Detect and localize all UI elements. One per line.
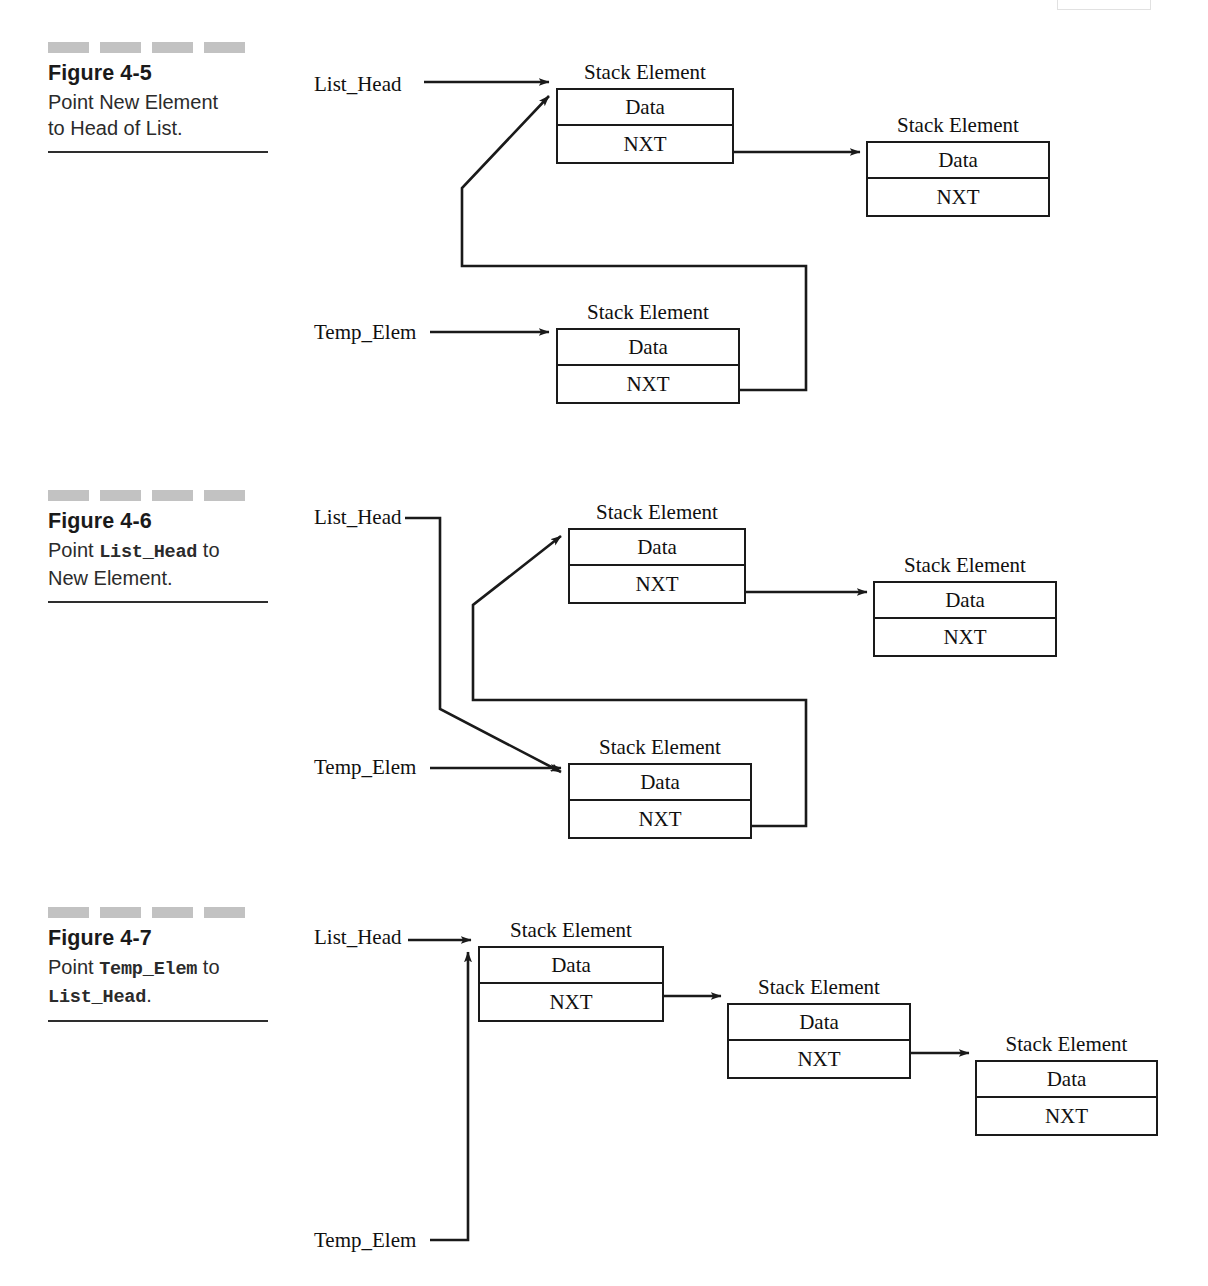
node-box: Data NXT [866,141,1050,217]
figure-caption-4-5: Figure 4-5 Point New Element to Head of … [48,42,280,153]
pointer-label-temp-elem: Temp_Elem [314,755,416,780]
figure-description-prefix: Point [48,539,99,561]
node-title: Stack Element [556,300,740,325]
figure-title: Figure 4-6 [48,508,280,536]
node-title: Stack Element [727,975,911,1000]
arrow-temp-elem-to-list-head [430,952,468,1240]
pointer-label-list-head: List_Head [314,505,401,530]
figure-description-suffix: to [197,956,219,978]
stack-element-node: Stack Element Data NXT [556,60,734,164]
caption-rule [48,601,268,603]
node-box: Data NXT [727,1003,911,1079]
figure-description-code: List_Head [99,542,197,563]
caption-rule [48,151,268,153]
node-title: Stack Element [975,1032,1158,1057]
node-box: Data NXT [556,88,734,164]
figure-description-code-1: Temp_Elem [99,959,197,980]
caption-dash [100,42,141,53]
stack-element-node: Stack Element Data NXT [727,975,911,1079]
node-cell-next: NXT [868,179,1048,215]
node-box: Data NXT [975,1060,1158,1136]
caption-dash [152,42,193,53]
node-cell-data: Data [558,330,738,366]
figure-description-code-2: List_Head [48,987,146,1008]
node-box: Data NXT [568,763,752,839]
page-number-artifact: 105 [1057,0,1151,10]
stack-element-node: Stack Element Data NXT [478,918,664,1022]
figure-description: Point New Element to Head of List. [48,89,280,142]
pointer-label-list-head: List_Head [314,72,401,97]
stack-element-node: Stack Element Data NXT [556,300,740,404]
caption-rule [48,1020,268,1022]
pointer-label-temp-elem: Temp_Elem [314,320,416,345]
caption-dash [204,42,245,53]
node-cell-data: Data [480,948,662,984]
stack-element-node: Stack Element Data NXT [975,1032,1158,1136]
node-title: Stack Element [478,918,664,943]
caption-dash [204,907,245,918]
figure-caption-4-6: Figure 4-6 Point List_Head to New Elemen… [48,490,280,603]
node-cell-data: Data [875,583,1055,619]
figure-description-period: . [146,984,152,1006]
node-cell-data: Data [558,90,732,126]
node-cell-data: Data [570,530,744,566]
node-cell-next: NXT [558,366,738,402]
caption-dash [48,490,89,501]
caption-dash [152,907,193,918]
stack-element-node: Stack Element Data NXT [568,735,752,839]
node-box: Data NXT [556,328,740,404]
node-box: Data NXT [568,528,746,604]
node-title: Stack Element [568,735,752,760]
pointer-label-list-head: List_Head [314,925,401,950]
caption-dash [204,490,245,501]
figure-caption-4-7: Figure 4-7 Point Temp_Elem to List_Head. [48,907,280,1022]
figure-description-prefix: Point [48,956,99,978]
figure-description-line-2: to Head of List. [48,117,183,139]
node-title: Stack Element [866,113,1050,138]
node-title: Stack Element [873,553,1057,578]
node-cell-next: NXT [977,1098,1156,1134]
caption-dash [152,490,193,501]
stack-element-node: Stack Element Data NXT [866,113,1050,217]
arrow-list-head-to-new-element [405,518,561,772]
node-box: Data NXT [478,946,664,1022]
node-cell-next: NXT [480,984,662,1020]
node-cell-data: Data [868,143,1048,179]
figure-description-suffix: to [197,539,219,561]
caption-dashes [48,42,280,53]
node-cell-data: Data [729,1005,909,1041]
node-cell-data: Data [977,1062,1156,1098]
node-cell-next: NXT [570,566,744,602]
caption-dash [100,490,141,501]
caption-dashes [48,907,280,918]
node-cell-next: NXT [570,801,750,837]
figure-description: Point List_Head to New Element. [48,537,280,592]
stack-element-node: Stack Element Data NXT [873,553,1057,657]
caption-dash [48,907,89,918]
node-cell-next: NXT [729,1041,909,1077]
node-box: Data NXT [873,581,1057,657]
figure-title: Figure 4-7 [48,925,280,953]
node-cell-next: NXT [558,126,732,162]
caption-dash [48,42,89,53]
book-page: 105 Figure 4-5 Point New Element to Head… [0,0,1208,1286]
figure-title: Figure 4-5 [48,60,280,88]
pointer-label-temp-elem: Temp_Elem [314,1228,416,1253]
figure-description-line-1: Point New Element [48,91,218,113]
node-title: Stack Element [556,60,734,85]
caption-dash [100,907,141,918]
node-title: Stack Element [568,500,746,525]
caption-dashes [48,490,280,501]
stack-element-node: Stack Element Data NXT [568,500,746,604]
node-cell-next: NXT [875,619,1055,655]
figure-description: Point Temp_Elem to List_Head. [48,954,280,1011]
node-cell-data: Data [570,765,750,801]
figure-description-line-2: New Element. [48,567,173,589]
